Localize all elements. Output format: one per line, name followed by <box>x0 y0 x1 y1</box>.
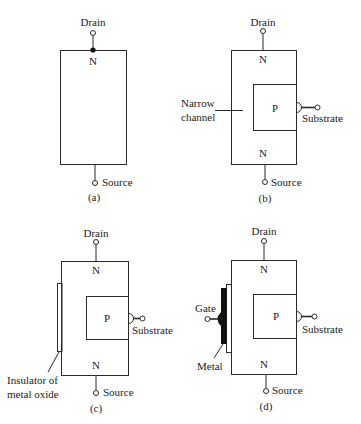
drain-label: Drain <box>251 225 277 237</box>
panel-b <box>215 29 320 185</box>
source-terminal-icon <box>263 180 268 185</box>
mosfet-diagram: Drain N Source (a) Drain N P N Substrate… <box>0 0 361 424</box>
drain-label: Drain <box>250 16 276 28</box>
substrate-contact-icon <box>297 312 302 322</box>
gate-contact-icon <box>218 312 222 326</box>
n-region-label: N <box>92 359 100 371</box>
p-region-label: P <box>272 102 278 114</box>
p-region-label: P <box>273 310 279 322</box>
substrate-contact-icon <box>297 103 302 113</box>
insulator-pointer <box>48 352 59 372</box>
source-label: Source <box>103 386 134 398</box>
n-region-label: N <box>260 263 268 275</box>
metal-label: Metal <box>197 360 223 372</box>
source-label: Source <box>272 384 303 396</box>
source-label: Source <box>271 176 302 188</box>
drain-terminal-icon <box>91 31 96 36</box>
substrate-terminal-icon <box>140 316 145 321</box>
drain-label: Drain <box>80 16 106 28</box>
substrate-label: Substrate <box>302 112 343 124</box>
substrate-contact-icon <box>129 314 134 324</box>
n-channel-bar <box>61 51 127 165</box>
panel-caption: (a) <box>88 191 101 204</box>
source-terminal-icon <box>93 181 98 186</box>
metal-pointer <box>214 344 223 358</box>
drain-label: Drain <box>83 227 109 239</box>
panel-a <box>61 31 127 186</box>
substrate-label: Substrate <box>302 323 343 335</box>
gate-terminal-icon <box>205 317 210 322</box>
n-region-label: N <box>92 264 100 276</box>
n-region-label: N <box>259 53 267 65</box>
insulator-label: metal oxide <box>7 388 59 400</box>
source-terminal-icon <box>94 391 99 396</box>
metal-gate-plate <box>221 288 227 344</box>
panel-c <box>48 240 145 396</box>
substrate-terminal-icon <box>312 314 317 319</box>
drain-terminal-icon <box>261 29 266 34</box>
drain-terminal-icon <box>94 240 99 245</box>
insulator-label: Insulator of <box>7 374 58 386</box>
narrow-channel-label: Narrow <box>181 97 215 109</box>
oxide-insulator <box>227 285 232 353</box>
narrow-channel-label: channel <box>181 111 215 123</box>
substrate-terminal-icon <box>315 105 320 110</box>
panel-caption: (d) <box>260 400 273 413</box>
n-region-label: N <box>89 55 97 67</box>
panel-caption: (b) <box>259 192 272 205</box>
source-label: Source <box>102 176 133 188</box>
n-region-label: N <box>259 147 267 159</box>
drain-terminal-icon <box>262 239 267 244</box>
junction-dot-icon <box>90 47 95 52</box>
n-region-label: N <box>260 358 268 370</box>
panel-caption: (c) <box>90 402 103 415</box>
p-region-label: P <box>104 312 110 324</box>
substrate-label: Substrate <box>132 324 173 336</box>
source-terminal-icon <box>264 389 269 394</box>
gate-label: Gate <box>195 302 216 314</box>
